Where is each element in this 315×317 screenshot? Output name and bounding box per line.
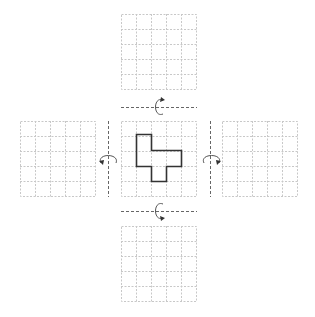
axes-overlay [0, 0, 315, 317]
rotate-arrow-icon [99, 156, 116, 166]
axis-bottom [121, 204, 197, 221]
axis-top [121, 97, 197, 114]
rotate-arrow-icon [156, 97, 166, 114]
axis-right [203, 121, 221, 197]
rotate-arrow-icon [156, 204, 166, 221]
rotate-arrow-icon [203, 156, 221, 166]
axis-left [99, 121, 116, 197]
